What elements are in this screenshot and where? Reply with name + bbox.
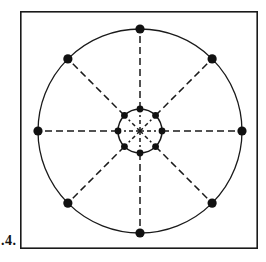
inner-node-s (137, 150, 144, 157)
inner-node-w (115, 128, 122, 135)
inner-node-e (159, 128, 166, 135)
inner-node-n (137, 106, 144, 113)
inner-node-sw (121, 143, 128, 150)
outer-node-n (135, 24, 144, 33)
outer-node-e (237, 126, 246, 135)
outer-node-nw (63, 54, 72, 63)
figure-caption-label: .4. (1, 234, 17, 248)
inner-node-nw (121, 112, 128, 119)
concentric-circles-diagram (0, 0, 266, 262)
outer-node-sw (63, 199, 72, 208)
outer-node-ne (208, 54, 217, 63)
inner-node-ne (152, 112, 159, 119)
outer-node-w (33, 126, 42, 135)
inner-node-se (152, 143, 159, 150)
outer-node-s (135, 228, 144, 237)
outer-node-se (208, 199, 217, 208)
figure-container: .4. (0, 0, 266, 262)
